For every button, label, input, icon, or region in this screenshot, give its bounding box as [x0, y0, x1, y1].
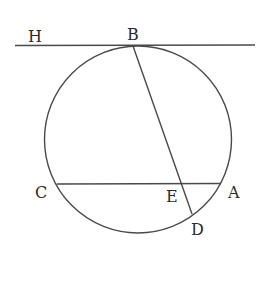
chord-bd — [133, 46, 192, 214]
tangent-line-hb — [15, 45, 255, 46]
circle — [45, 46, 232, 233]
label-c: C — [35, 183, 47, 202]
label-d: D — [191, 220, 204, 239]
chord-ca — [57, 184, 221, 185]
label-a: A — [227, 183, 240, 202]
label-b: B — [127, 25, 139, 44]
geometry-diagram: H B C E A D — [0, 0, 262, 296]
label-h: H — [28, 27, 42, 46]
label-e: E — [166, 187, 178, 206]
